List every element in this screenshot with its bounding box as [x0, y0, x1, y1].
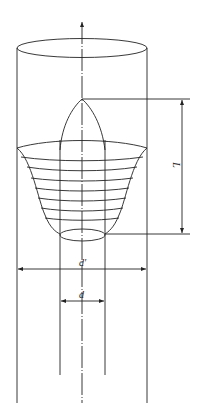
label-L: L	[171, 162, 181, 168]
bulb-right-side	[105, 148, 147, 234]
label-d: d	[79, 290, 84, 300]
pipe-dome	[60, 99, 105, 150]
bulb-left-side	[17, 148, 60, 234]
bulb-diagram	[0, 0, 204, 411]
label-d-prime: d′	[79, 258, 86, 268]
bulb-bottom-ellipse	[60, 229, 105, 241]
